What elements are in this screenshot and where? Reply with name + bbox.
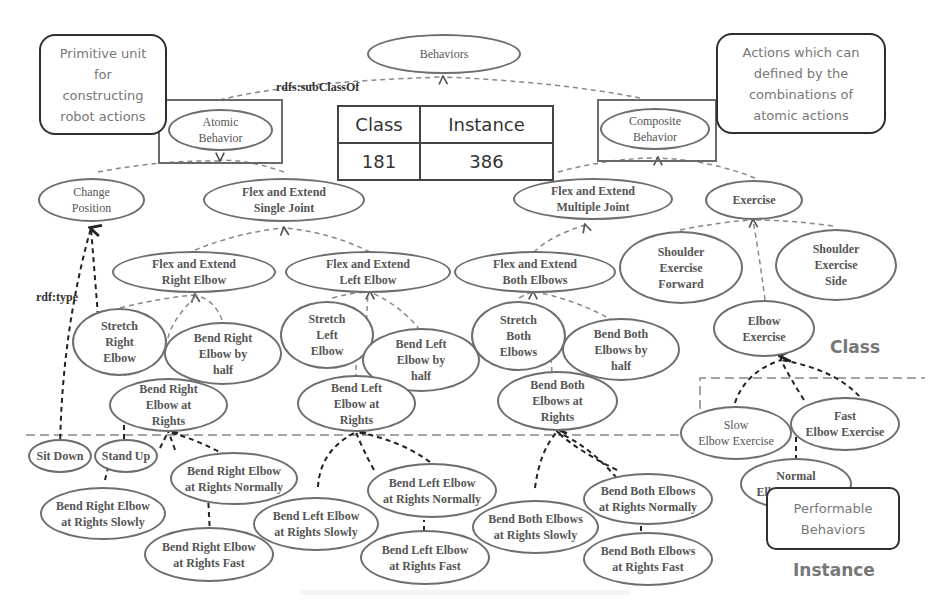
node-stretch-right-elbow: Stretch Right Elbow (72, 308, 167, 376)
node-flex-extend-right-elbow: Flex and Extend Right Elbow (112, 251, 276, 293)
node-shoulder-exercise-side: Shoulder Exercise Side (775, 229, 897, 301)
region-label-instance: Instance (793, 560, 875, 580)
node-composite-behavior: Composite Behavior (600, 108, 710, 150)
node-stretch-both-elbows: Stretch Both Elbows (471, 301, 566, 371)
node-flex-extend-left-elbow: Flex and Extend Left Elbow (285, 251, 451, 293)
callout-atomic: Primitive unit for constructing robot ac… (39, 34, 167, 135)
stats-header-instance: Instance (420, 106, 553, 143)
node-bend-both-elbows-rights: Bend Both Elbows at Rights (497, 371, 618, 431)
instance-bend-right-normally: Bend Right Elbow at Rights Normally (170, 452, 298, 505)
rdf-type-label: rdf:type (36, 290, 78, 305)
node-exercise: Exercise (705, 180, 803, 220)
subclassof-label: rdfs:subClassOf (276, 80, 359, 95)
instance-slow-elbow-exercise: Slow Elbow Exercise (680, 406, 792, 460)
node-change-position: Change Position (38, 178, 145, 222)
node-stretch-left-elbow: Stretch Left Elbow (280, 301, 374, 369)
node-atomic-behavior: Atomic Behavior (168, 109, 273, 151)
instance-bend-both-slowly: Bend Both Elbows at Rights Slowly (472, 500, 599, 554)
node-bend-right-elbow-rights: Bend Right Elbow at Rights (109, 378, 228, 432)
node-shoulder-exercise-forward: Shoulder Exercise Forward (619, 231, 743, 304)
node-behaviors: Behaviors (367, 34, 521, 74)
instance-bend-both-fast: Bend Both Elbows at Rights Fast (583, 532, 713, 586)
stats-header-row: Class Instance (338, 106, 553, 143)
node-bend-left-elbow-rights: Bend Left Elbow at Rights (297, 375, 416, 432)
node-elbow-exercise: Elbow Exercise (713, 300, 815, 357)
callout-performable: Performable Behaviors (766, 487, 900, 550)
instance-stand-up: Stand Up (94, 439, 158, 473)
instance-sit-down: Sit Down (28, 439, 92, 473)
node-flex-extend-both-elbows: Flex and Extend Both Elbows (454, 251, 616, 293)
faint-caption (300, 590, 630, 595)
region-label-class: Class (830, 337, 880, 357)
stats-header-class: Class (338, 106, 420, 143)
instance-fast-elbow-exercise: Fast Elbow Exercise (790, 397, 900, 451)
instance-bend-left-normally: Bend Left Elbow at Rights Normally (367, 463, 497, 518)
node-bend-right-elbow-half: Bend Right Elbow by half (164, 322, 282, 385)
instance-bend-left-slowly: Bend Left Elbow at Rights Slowly (253, 497, 379, 551)
instance-bend-left-fast: Bend Left Elbow at Rights Fast (360, 530, 490, 585)
stats-value-instance: 386 (420, 143, 553, 180)
stats-table: Class Instance 181 386 (337, 105, 554, 181)
node-flex-extend-single-joint: Flex and Extend Single Joint (203, 178, 365, 222)
instance-bend-right-fast: Bend Right Elbow at Rights Fast (144, 527, 274, 582)
stats-value-class: 181 (338, 143, 420, 180)
behavior-ontology-diagram: Primitive unit for constructing robot ac… (0, 0, 929, 608)
stats-value-row: 181 386 (338, 143, 553, 180)
instance-bend-right-slowly: Bend Right Elbow at Rights Slowly (40, 487, 166, 540)
node-bend-both-elbows-half: Bend Both Elbows by half (562, 318, 680, 381)
instance-bend-both-normally: Bend Both Elbows at Rights Normally (583, 473, 713, 525)
node-flex-extend-multiple-joint: Flex and Extend Multiple Joint (513, 178, 673, 220)
callout-composite: Actions which can defined by the combina… (716, 33, 886, 134)
